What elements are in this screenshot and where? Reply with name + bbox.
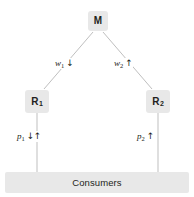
node-retailer-2-subscript: 2: [160, 100, 164, 107]
node-retailer-2[interactable]: R2: [146, 90, 170, 113]
down-up-arrow-icon: ↓↑: [27, 131, 41, 141]
edge-label-w1: w1↓: [54, 58, 74, 69]
down-arrow-icon: ↓: [66, 58, 73, 68]
edge-label-p2: p2↑: [136, 131, 155, 142]
edge-label-w1-subscript: 1: [61, 62, 64, 69]
edge-label-p2-subscript: 2: [142, 135, 145, 142]
node-retailer-1[interactable]: R1: [25, 90, 49, 113]
edge-label-p1-subscript: 1: [22, 135, 25, 142]
edge-label-w2-subscript: 2: [120, 62, 123, 69]
edge-label-p1-symbol: p: [17, 131, 22, 141]
edge-label-p1: p1↓↑: [16, 131, 42, 142]
up-arrow-icon: ↑: [125, 58, 132, 68]
node-manufacturer[interactable]: M: [88, 11, 108, 31]
up-arrow-icon: ↑: [147, 131, 154, 141]
node-consumers-label: Consumers: [72, 178, 121, 188]
node-retailer-2-label: R: [152, 97, 159, 107]
node-retailer-1-subscript: 1: [39, 100, 43, 107]
node-retailer-1-label: R: [31, 97, 38, 107]
node-consumers[interactable]: Consumers: [5, 172, 189, 193]
edge-label-p2-symbol: p: [137, 131, 142, 141]
edge-label-w2: w2↑: [113, 58, 133, 69]
diagram-canvas: M R1 R2 w1↓ w2↑ p1↓↑ p2↑ Consumers: [0, 0, 194, 197]
node-manufacturer-label: M: [94, 16, 103, 26]
